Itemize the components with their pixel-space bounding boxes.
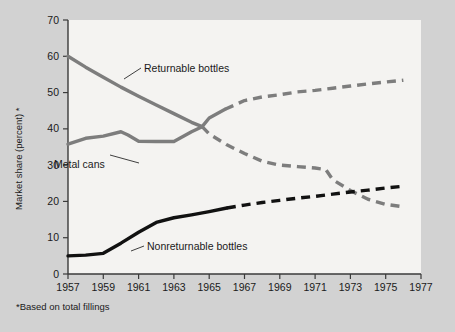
chart-footnote: *Based on total fillings xyxy=(16,301,110,312)
series-line-dashed-2 xyxy=(227,186,404,208)
x-tick-label: 1975 xyxy=(374,281,398,293)
metal-cans-leader-line xyxy=(110,155,139,163)
y-tick-label: 10 xyxy=(47,231,59,243)
x-tick-label: 1969 xyxy=(268,281,292,293)
y-axis-title: Market share (percent) * xyxy=(13,107,24,210)
y-tick-label: 70 xyxy=(47,14,59,26)
x-tick-label: 1977 xyxy=(409,281,433,293)
x-tick-label: 1961 xyxy=(127,281,151,293)
chart-svg: 010203040506070 195719591961196319651967… xyxy=(0,0,455,332)
x-tick-label: 1967 xyxy=(233,281,257,293)
series-label-nonreturnable-bottles: Nonreturnable bottles xyxy=(147,240,247,252)
x-tick-label: 1959 xyxy=(92,281,116,293)
y-tick-label: 0 xyxy=(53,268,59,280)
x-tick-label: 1973 xyxy=(339,281,363,293)
x-tick-label: 1963 xyxy=(162,281,186,293)
x-axis-ticks: 1957195919611963196519671969197119731975… xyxy=(56,274,433,293)
returnable-leader-line xyxy=(124,68,141,79)
x-tick-label: 1957 xyxy=(56,281,80,293)
y-tick-label: 60 xyxy=(47,50,59,62)
y-tick-label: 20 xyxy=(47,195,59,207)
series-label-metal-cans: Metal cans xyxy=(54,158,105,170)
y-tick-label: 40 xyxy=(47,122,59,134)
series-line-dashed-1 xyxy=(225,80,403,109)
nonreturnable-leader-line xyxy=(131,246,144,251)
series-label-returnable-bottles: Returnable bottles xyxy=(144,62,229,74)
market-share-chart-figure: 010203040506070 195719591961196319651967… xyxy=(0,0,455,332)
x-tick-label: 1971 xyxy=(303,281,327,293)
y-axis-ticks: 010203040506070 xyxy=(47,14,68,280)
x-tick-label: 1965 xyxy=(198,281,222,293)
series-line-dashed-0 xyxy=(202,127,403,207)
series-line-solid-1 xyxy=(68,109,225,144)
series-paths-group xyxy=(68,56,403,256)
y-tick-label: 50 xyxy=(47,86,59,98)
